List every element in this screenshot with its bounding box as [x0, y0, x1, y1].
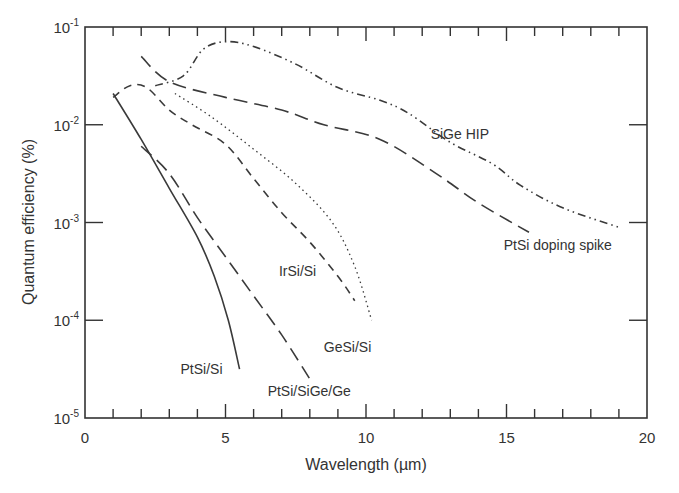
axes: 0510152010-110-210-310-410-5: [53, 17, 655, 446]
curve-ptsi-si: [113, 93, 239, 369]
curve-label: GeSi/Si: [324, 339, 371, 355]
plot-frame: [85, 27, 647, 418]
curve-gesi-si: [175, 93, 372, 320]
y-tick-label: 10-5: [53, 408, 79, 427]
x-tick-label: 0: [81, 429, 89, 446]
curve-sige-hip: [155, 42, 619, 228]
y-tick-label: 10-1: [53, 17, 79, 36]
curve-label: SiGe HIP: [431, 126, 489, 142]
curve-label: PtSi/SiGe/Ge: [268, 383, 351, 399]
y-tick-label: 10-4: [53, 310, 79, 329]
x-tick-label: 15: [498, 429, 515, 446]
curve-label: PtSi/Si: [181, 361, 223, 377]
x-tick-label: 10: [358, 429, 375, 446]
y-axis-title: Quantum efficiency (%): [20, 139, 37, 305]
curve-ptsi-doping-spike: [141, 56, 529, 232]
x-axis-title: Wavelength (µm): [305, 456, 427, 473]
y-tick-label: 10-2: [53, 115, 79, 134]
curve-label: IrSi/Si: [279, 263, 316, 279]
curve-labels: PtSi/SiPtSi/SiGe/GeIrSi/SiGeSi/SiPtSi do…: [181, 126, 613, 399]
y-tick-label: 10-3: [53, 213, 79, 232]
x-tick-label: 5: [221, 429, 229, 446]
x-tick-label: 20: [639, 429, 656, 446]
curves: [113, 42, 619, 379]
curve-label: PtSi doping spike: [504, 237, 612, 253]
quantum-efficiency-chart: 0510152010-110-210-310-410-5 PtSi/SiPtSi…: [0, 0, 679, 493]
